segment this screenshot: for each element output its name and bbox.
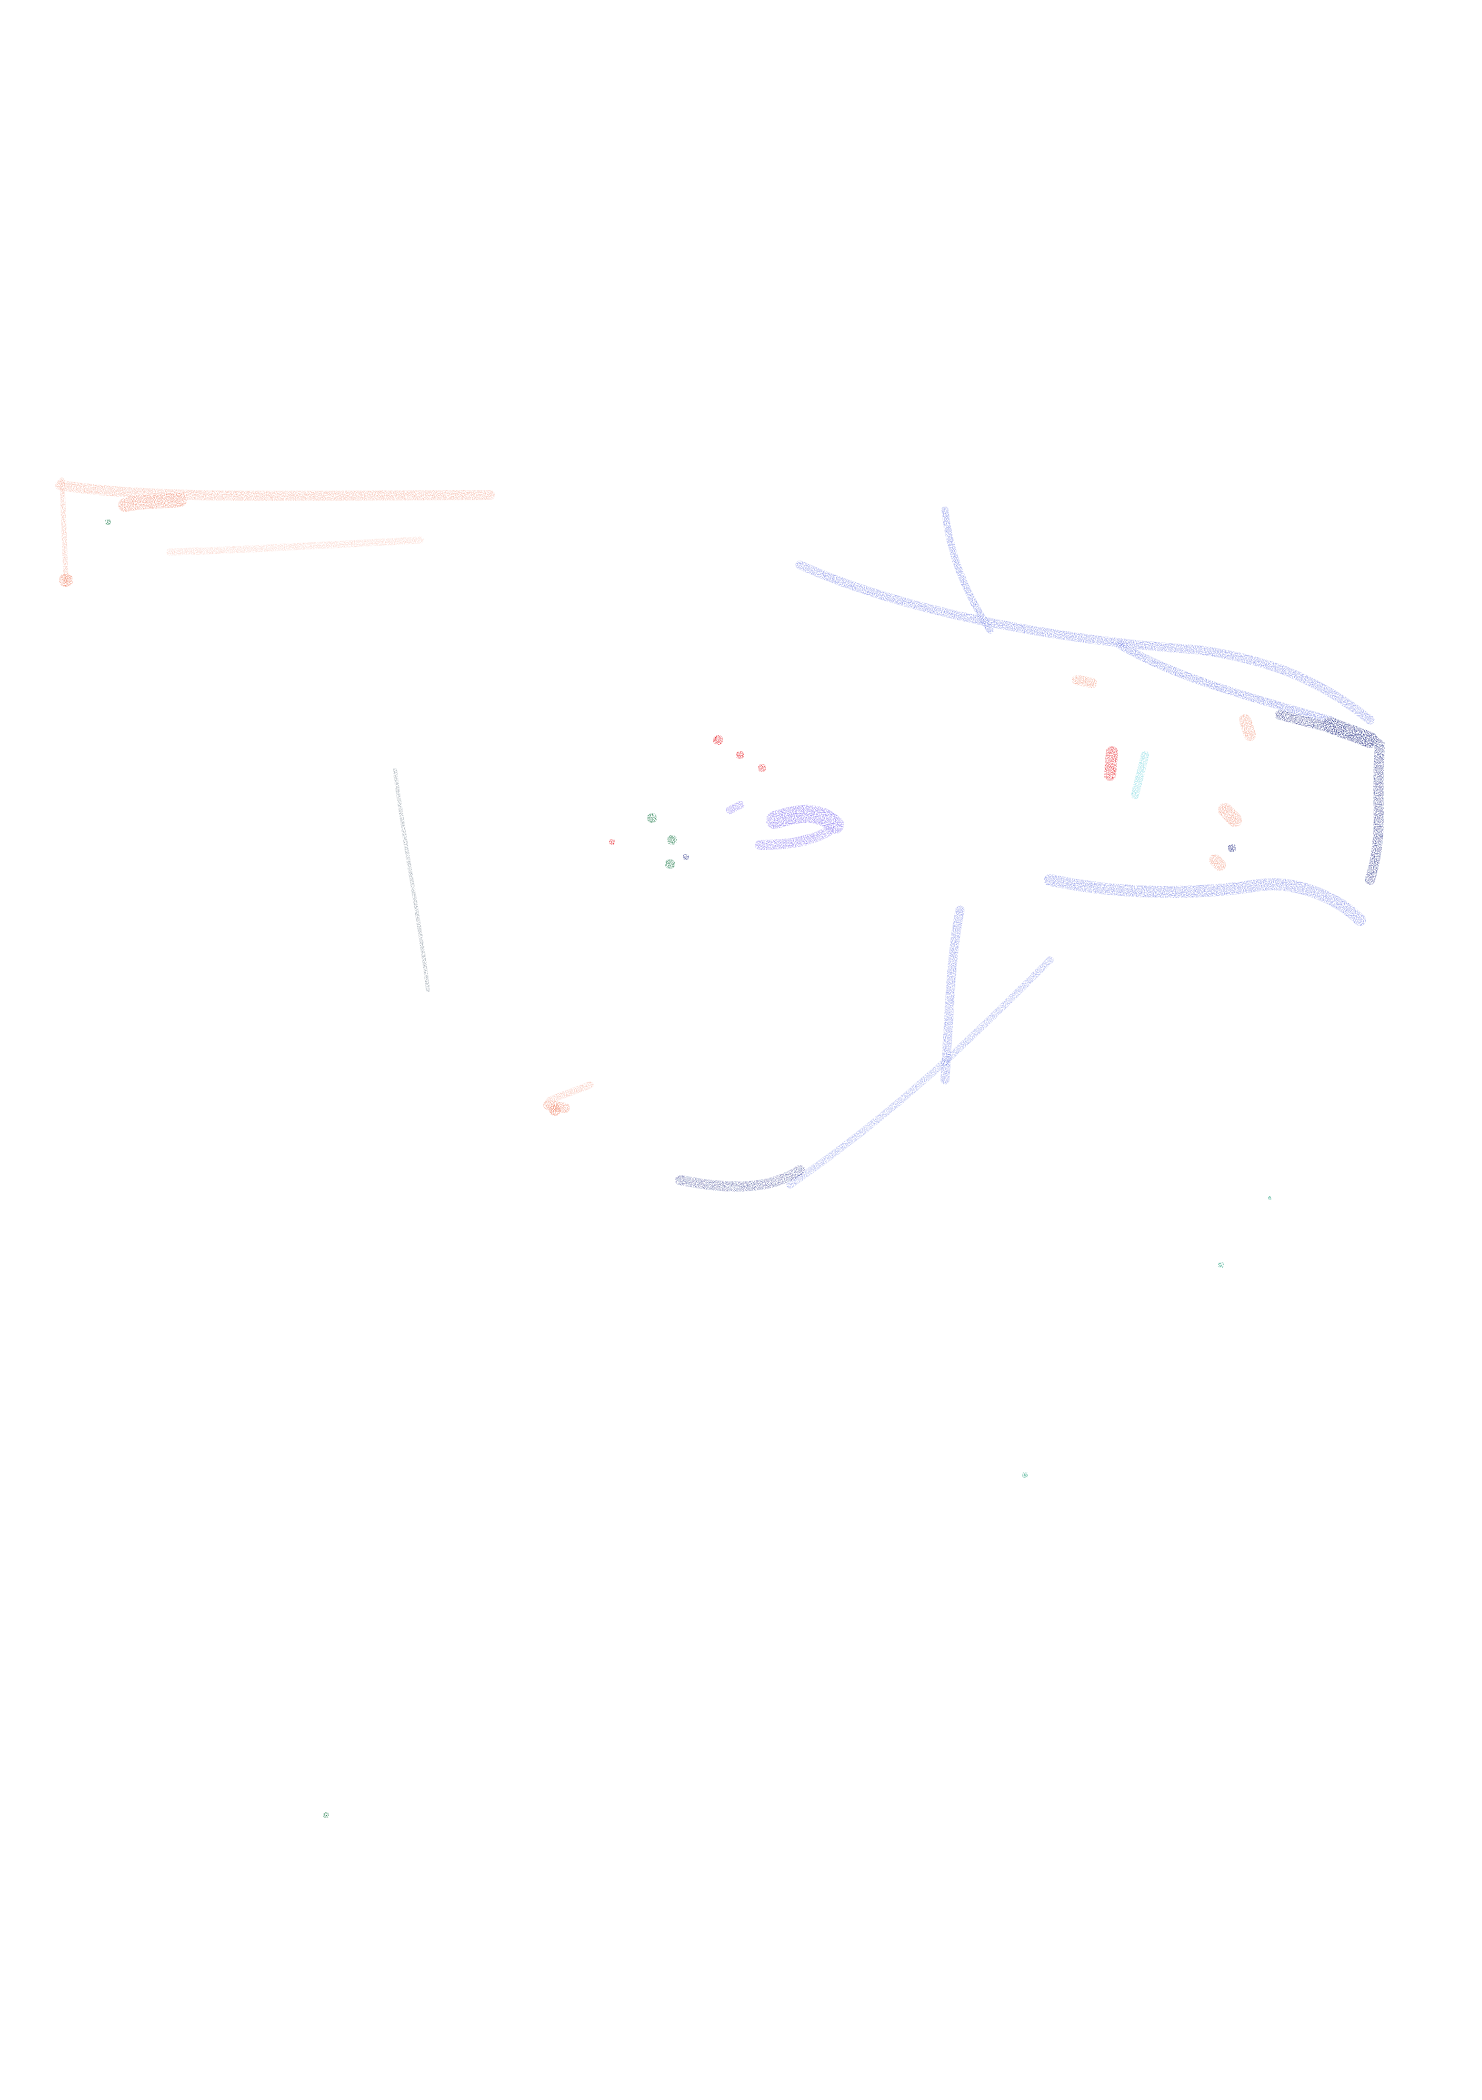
crayon-dot bbox=[1218, 1262, 1224, 1268]
crayon-dot bbox=[683, 854, 689, 860]
mane-salmon-stroke bbox=[1077, 680, 1092, 683]
crayon-dot bbox=[323, 1812, 329, 1818]
violet-dash-stroke bbox=[730, 805, 740, 810]
paper-background bbox=[0, 0, 1482, 2100]
crayon-dot bbox=[105, 519, 111, 525]
crayon-dot bbox=[736, 751, 744, 759]
eye-red-stroke bbox=[1110, 752, 1112, 775]
crayon-dot bbox=[549, 1104, 561, 1116]
crayon-dot bbox=[713, 735, 723, 745]
crayon-dot bbox=[1022, 1472, 1028, 1478]
crayon-drawing bbox=[0, 0, 1482, 2100]
crayon-dot bbox=[1268, 1196, 1272, 1200]
cheek-salmon-2-stroke bbox=[1215, 860, 1220, 865]
crayon-dot bbox=[609, 839, 615, 845]
cheek-salmon-stroke bbox=[1225, 810, 1235, 820]
crayon-dot bbox=[665, 859, 675, 869]
crayon-dot bbox=[59, 573, 73, 587]
crayon-dot bbox=[667, 835, 677, 845]
crayon-dot bbox=[1228, 844, 1236, 852]
brow-salmon-stroke bbox=[1245, 720, 1250, 735]
crayon-dot bbox=[647, 813, 657, 823]
top-left-salmon-dash-stroke bbox=[125, 500, 180, 505]
crayon-dot bbox=[758, 764, 766, 772]
